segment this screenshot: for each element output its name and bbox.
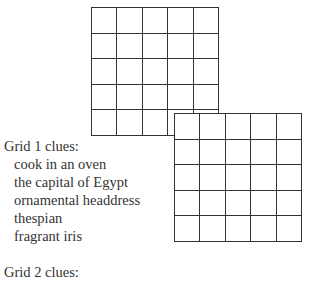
- grid-cell[interactable]: [92, 8, 117, 34]
- grid-cell[interactable]: [226, 140, 251, 166]
- clues-panel: Grid 1 clues: cook in an oven the capita…: [4, 137, 140, 281]
- grid-cell[interactable]: [143, 59, 168, 85]
- grid-cell[interactable]: [251, 216, 276, 242]
- grid-cell[interactable]: [226, 216, 251, 242]
- grid-cell[interactable]: [92, 34, 117, 60]
- grid-cell[interactable]: [175, 216, 200, 242]
- grid-cell[interactable]: [251, 191, 276, 217]
- crossword-grid-2: [174, 113, 302, 242]
- grid1-clues-title: Grid 1 clues:: [4, 137, 140, 155]
- grid-cell[interactable]: [168, 8, 193, 34]
- grid-cell[interactable]: [251, 140, 276, 166]
- grid-cell[interactable]: [168, 59, 193, 85]
- grid-cell[interactable]: [175, 165, 200, 191]
- clue-3: ornamental headdress: [4, 191, 140, 209]
- grid-cell[interactable]: [92, 59, 117, 85]
- grid-cell[interactable]: [200, 216, 225, 242]
- grid-cell[interactable]: [175, 191, 200, 217]
- clue-1: cook in an oven: [4, 155, 140, 173]
- grid-cell[interactable]: [226, 191, 251, 217]
- clue-2: the capital of Egypt: [4, 173, 140, 191]
- grid-cell[interactable]: [251, 165, 276, 191]
- grid-cell[interactable]: [168, 34, 193, 60]
- grid-cell[interactable]: [194, 59, 219, 85]
- grid-cell[interactable]: [277, 114, 302, 140]
- grid-cell[interactable]: [200, 114, 225, 140]
- grid-cell[interactable]: [143, 110, 168, 136]
- grid-cell[interactable]: [194, 8, 219, 34]
- grid-cell[interactable]: [194, 34, 219, 60]
- grid-cell[interactable]: [226, 114, 251, 140]
- grid-cell[interactable]: [277, 165, 302, 191]
- grid2-clues-title: Grid 2 clues:: [4, 263, 140, 281]
- grid-cell[interactable]: [200, 191, 225, 217]
- grid-cell[interactable]: [200, 165, 225, 191]
- grid-cell[interactable]: [92, 110, 117, 136]
- grid-cell[interactable]: [117, 85, 142, 111]
- grid-cell[interactable]: [175, 140, 200, 166]
- grid-cell[interactable]: [277, 140, 302, 166]
- grid-cell[interactable]: [117, 8, 142, 34]
- grid-cell[interactable]: [194, 85, 219, 111]
- grid-cell[interactable]: [200, 140, 225, 166]
- grid-cell[interactable]: [117, 34, 142, 60]
- grid-cell[interactable]: [143, 8, 168, 34]
- grid-cell[interactable]: [143, 85, 168, 111]
- grid-cell[interactable]: [277, 191, 302, 217]
- clue-5: fragrant iris: [4, 227, 140, 245]
- grid-cell[interactable]: [226, 165, 251, 191]
- clue-4: thespian: [4, 209, 140, 227]
- grid-cell[interactable]: [117, 110, 142, 136]
- grid-cell[interactable]: [251, 114, 276, 140]
- grid-cell[interactable]: [168, 85, 193, 111]
- grid-cell[interactable]: [117, 59, 142, 85]
- grid-cell[interactable]: [175, 114, 200, 140]
- grid-cell[interactable]: [277, 216, 302, 242]
- grid-cell[interactable]: [92, 85, 117, 111]
- grid-cell[interactable]: [143, 34, 168, 60]
